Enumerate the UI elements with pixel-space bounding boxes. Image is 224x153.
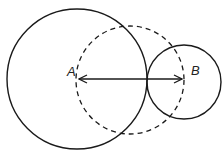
dashed-circle bbox=[76, 26, 184, 134]
label-b: B bbox=[191, 63, 200, 78]
circles-diagram: A B bbox=[0, 0, 224, 153]
label-a: A bbox=[66, 64, 76, 79]
